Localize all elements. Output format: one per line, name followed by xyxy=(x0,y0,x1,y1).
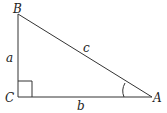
vertex-b-label: B xyxy=(12,2,22,16)
angle-a-arc xyxy=(123,83,125,97)
vertex-c-label: C xyxy=(5,91,14,105)
side-c-line xyxy=(18,14,152,97)
vertex-a-label: A xyxy=(152,91,162,105)
side-b-label: b xyxy=(77,99,85,113)
side-c-label: c xyxy=(83,41,90,55)
triangle-diagram: B a C b c A xyxy=(0,0,167,113)
right-angle-marker xyxy=(18,81,32,97)
side-a-label: a xyxy=(6,51,13,65)
